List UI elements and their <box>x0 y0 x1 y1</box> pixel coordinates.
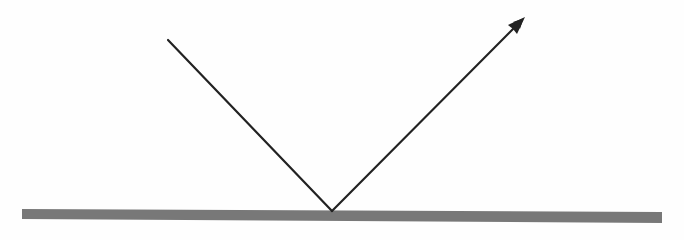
reflection-diagram <box>0 0 684 240</box>
diagram-svg <box>0 0 684 240</box>
incident-ray <box>168 40 332 211</box>
reflecting-surface <box>22 209 662 223</box>
reflected-ray <box>332 20 522 211</box>
